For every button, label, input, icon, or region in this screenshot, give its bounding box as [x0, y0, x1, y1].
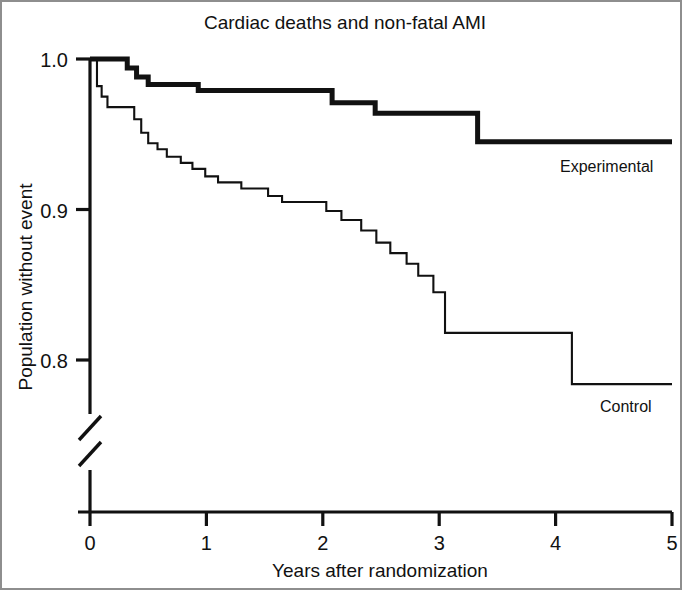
y-axis-break-icon [79, 416, 101, 466]
y-tick-label: 1.0 [40, 49, 68, 71]
axes [76, 58, 672, 526]
kaplan-meier-chart: Cardiac deaths and non-fatal AMI 1.00.90… [2, 2, 682, 590]
x-tick-label: 5 [666, 532, 677, 554]
y-axis-title: Population without event [15, 183, 36, 391]
x-tick-label: 4 [550, 532, 561, 554]
y-tick-label: 0.9 [40, 200, 68, 222]
figure-container: Cardiac deaths and non-fatal AMI 1.00.90… [0, 0, 682, 590]
x-axis-tick-labels: 012345 [84, 532, 677, 554]
x-tick-label: 2 [317, 532, 328, 554]
y-tick-label: 0.8 [40, 350, 68, 372]
x-tick-label: 3 [434, 532, 445, 554]
control-curve [90, 59, 672, 384]
x-axis-title: Years after randomization [272, 560, 488, 581]
control-series-label: Control [600, 398, 652, 415]
chart-title: Cardiac deaths and non-fatal AMI [204, 12, 486, 33]
x-tick-label: 0 [84, 532, 95, 554]
y-axis-tick-labels: 1.00.90.8 [40, 49, 68, 372]
experimental-series-label: Experimental [560, 158, 653, 175]
experimental-curve [90, 59, 672, 142]
x-tick-label: 1 [201, 532, 212, 554]
